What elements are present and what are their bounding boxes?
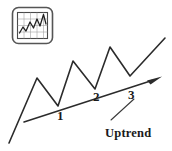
uptrend-leader-line: [111, 99, 134, 120]
trough-label-2: 2: [93, 90, 100, 103]
trough-label-3: 3: [128, 88, 135, 101]
stock-chart-icon: [13, 8, 53, 44]
uptrend-arrowhead: [147, 77, 162, 85]
trough-label-1: 1: [57, 109, 64, 122]
uptrend-figure: 1 2 3 Uptrend: [0, 0, 172, 151]
uptrend-annotation-label: Uptrend: [105, 127, 151, 140]
